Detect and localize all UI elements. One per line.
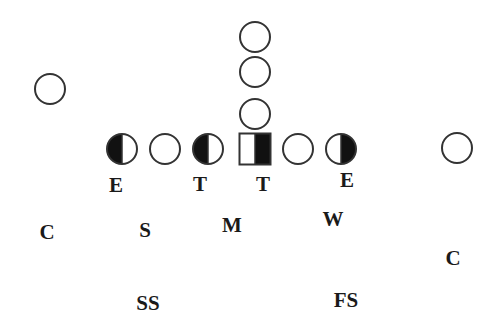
wide-receiver-right-circle-icon [442,133,472,163]
offense-players [35,22,472,165]
defense-end-left-label: E [109,175,123,196]
lineman-left-tackle-circle-icon [193,134,223,164]
lineman-right-end-circle-icon [326,134,356,164]
defense-strong-safety-label: SS [136,293,159,314]
back-3-circle-icon [240,99,270,129]
lineman-right-2-circle-icon [283,134,313,164]
lineman-left-2-circle-icon [150,134,180,164]
back-1-circle-icon [240,22,270,52]
defense-end-right-label: E [340,170,354,191]
defense-middle-lb-label: M [222,215,242,236]
defense-weak-lb-label: W [323,209,344,230]
formation-diagram [0,0,498,336]
back-2-circle-icon [240,57,270,87]
defense-tackle-right-label: T [256,174,270,195]
defense-free-safety-label: FS [334,290,359,311]
defense-corner-right-label: C [445,248,460,269]
center-square-icon [240,134,271,165]
lineman-left-end-circle-icon [107,134,137,164]
defense-strong-lb-label: S [139,220,151,241]
defense-corner-left-label: C [39,222,54,243]
wide-receiver-left-circle-icon [35,74,65,104]
defense-tackle-left-label: T [193,174,207,195]
